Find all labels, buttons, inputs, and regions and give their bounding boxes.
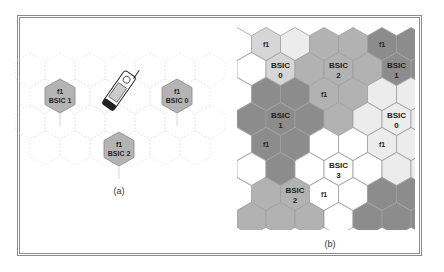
- svg-text:BSIC 2: BSIC 2: [108, 150, 131, 157]
- cell-label: BSIC: [387, 111, 406, 120]
- cell-label: f1: [263, 141, 269, 148]
- svg-text:1: 1: [394, 71, 399, 80]
- svg-text:1: 1: [278, 121, 283, 130]
- cell-label: f1: [379, 41, 385, 48]
- panel-b-diagram: f1f1BSIC0BSIC2BSIC1f1BSIC1BSIC0f1f1BSIC3…: [223, 28, 441, 236]
- svg-text:f1: f1: [116, 141, 122, 148]
- svg-text:BSIC 1: BSIC 1: [49, 97, 72, 104]
- mobile-phone-icon: [101, 63, 141, 111]
- cell-label: BSIC: [271, 111, 290, 120]
- cell-label: BSIC: [285, 186, 304, 195]
- svg-text:f1: f1: [174, 88, 180, 95]
- cell-hex: f1BSIC 1: [45, 79, 75, 126]
- cell-label: BSIC: [271, 61, 290, 70]
- svg-text:BSIC 0: BSIC 0: [166, 97, 189, 104]
- svg-text:2: 2: [336, 71, 341, 80]
- cell-label: f1: [321, 91, 327, 98]
- cell-label: BSIC: [387, 61, 406, 70]
- cell-label: BSIC: [329, 61, 348, 70]
- panel-a-diagram: f1BSIC 1f1BSIC 0f1BSIC 2: [15, 53, 225, 179]
- cell-label: f1: [263, 41, 269, 48]
- cell-hex: f1BSIC 2: [104, 132, 134, 179]
- svg-text:f1: f1: [57, 88, 63, 95]
- cell-label: BSIC: [329, 161, 348, 170]
- caption-a: (a): [99, 186, 139, 196]
- cell-hex: f1BSIC 0: [162, 79, 192, 126]
- cell-label: f1: [379, 141, 385, 148]
- figure-canvas: f1BSIC 1f1BSIC 0f1BSIC 2 f1f1BSIC0BSIC2B…: [0, 0, 444, 272]
- svg-text:0: 0: [394, 121, 399, 130]
- svg-text:2: 2: [293, 196, 298, 205]
- svg-text:0: 0: [278, 71, 283, 80]
- svg-text:3: 3: [336, 171, 341, 180]
- caption-b: (b): [310, 239, 350, 249]
- cell-label: f1: [321, 191, 327, 198]
